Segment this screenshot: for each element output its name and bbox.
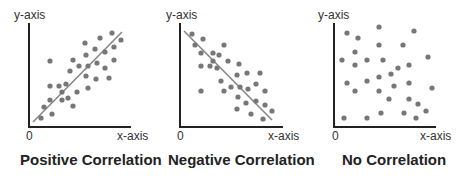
data-point	[106, 75, 111, 80]
data-point	[344, 80, 349, 85]
origin-label: 0	[332, 129, 339, 143]
data-point	[102, 65, 107, 70]
data-point	[63, 81, 68, 86]
data-point	[344, 30, 349, 35]
data-point	[352, 49, 357, 54]
data-point	[388, 71, 393, 76]
data-point	[207, 63, 212, 68]
x-axis-label: x-axis	[117, 129, 148, 143]
origin-label: 0	[177, 129, 184, 143]
data-point	[352, 88, 357, 93]
negative-correlation-chart: y-axis 0 x-axis Negative Correlation	[166, 8, 315, 168]
data-point	[244, 70, 249, 75]
data-points	[339, 24, 434, 120]
data-point	[198, 63, 203, 68]
data-point	[85, 63, 90, 68]
data-point	[245, 86, 250, 91]
data-point	[210, 58, 215, 63]
x-axis-label: x-axis	[420, 129, 451, 143]
data-point	[376, 74, 381, 79]
correlation-charts-figure: y-axis 0 x-axis Positive Correlation y-a…	[0, 0, 465, 184]
data-point	[401, 110, 406, 115]
data-point	[111, 44, 116, 49]
axis-lines	[334, 23, 436, 127]
axes	[334, 23, 436, 127]
data-point	[243, 100, 248, 105]
axes	[180, 23, 283, 127]
data-point	[92, 46, 97, 51]
data-point	[364, 78, 369, 83]
data-point	[341, 115, 346, 120]
data-point	[83, 73, 88, 78]
data-point	[395, 65, 400, 70]
data-point	[235, 94, 240, 99]
data-point	[56, 83, 61, 88]
data-point	[221, 88, 226, 93]
data-point	[47, 58, 52, 63]
data-point	[257, 70, 262, 75]
data-point	[260, 116, 265, 121]
data-point	[38, 115, 43, 120]
data-point	[376, 42, 381, 47]
data-point	[406, 96, 411, 101]
data-point	[415, 101, 420, 106]
data-point	[200, 36, 205, 41]
data-point	[70, 103, 75, 108]
data-point	[376, 88, 381, 93]
data-point	[59, 97, 64, 102]
data-point	[59, 89, 64, 94]
data-point	[364, 115, 369, 120]
data-point	[49, 111, 54, 116]
data-point	[218, 78, 223, 83]
data-point	[236, 61, 241, 66]
data-point	[237, 84, 242, 89]
data-point	[47, 83, 52, 88]
data-point	[400, 42, 405, 47]
data-point	[76, 63, 81, 68]
data-point	[216, 52, 221, 57]
data-point	[253, 81, 258, 86]
y-axis-label: y-axis	[318, 8, 349, 22]
data-point	[111, 57, 116, 62]
data-point	[425, 54, 430, 59]
data-point	[102, 49, 107, 54]
data-point	[234, 106, 239, 111]
chart-title: Positive Correlation	[20, 151, 162, 168]
data-point	[429, 85, 434, 90]
data-point	[248, 111, 253, 116]
data-point	[376, 24, 381, 29]
data-point	[406, 80, 411, 85]
data-point	[47, 97, 52, 102]
chart-title: Negative Correlation	[168, 151, 315, 168]
data-point	[253, 98, 258, 103]
axis-lines	[180, 23, 283, 127]
data-point	[74, 89, 79, 94]
data-point	[189, 31, 194, 36]
data-point	[352, 62, 357, 67]
data-point	[93, 76, 98, 81]
data-point	[210, 50, 215, 55]
data-point	[85, 85, 90, 90]
chart-title: No Correlation	[342, 151, 446, 168]
data-point	[262, 102, 267, 107]
data-point	[198, 50, 203, 55]
data-point	[221, 42, 226, 47]
data-point	[214, 65, 219, 70]
data-point	[378, 110, 383, 115]
data-point	[94, 60, 99, 65]
data-point	[391, 83, 396, 88]
y-axis-label: y-axis	[166, 8, 197, 22]
data-point	[41, 104, 46, 109]
data-point	[70, 57, 75, 62]
origin-label: 0	[26, 129, 33, 143]
positive-correlation-chart: y-axis 0 x-axis Positive Correlation	[14, 8, 162, 168]
data-point	[198, 88, 203, 93]
data-point	[82, 40, 87, 45]
no-correlation-chart: y-axis 0 x-axis No Correlation	[318, 8, 451, 168]
data-point	[65, 95, 70, 100]
data-point	[364, 57, 369, 62]
y-axis-label: y-axis	[14, 8, 45, 22]
data-point	[406, 62, 411, 67]
data-point	[234, 72, 239, 77]
x-axis-label: x-axis	[268, 129, 299, 143]
